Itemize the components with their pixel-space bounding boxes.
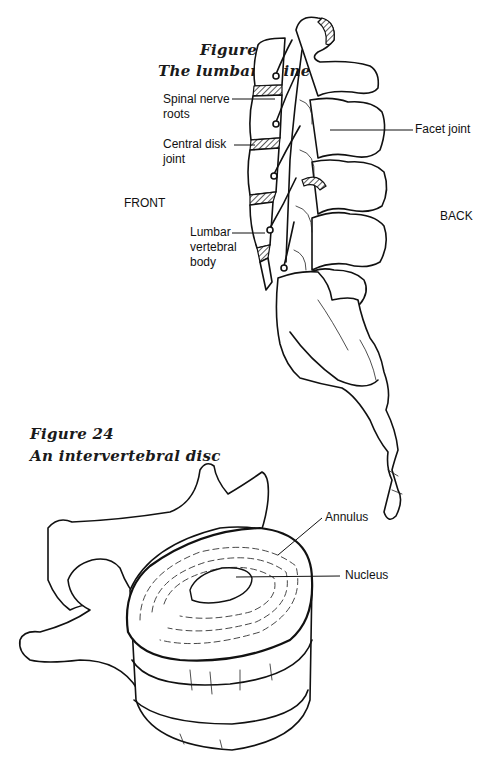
intervertebral-disc-illustration	[20, 464, 340, 750]
sacrum-coccyx	[276, 272, 402, 520]
lumbar-spine-illustration	[232, 17, 413, 519]
spinous-processes	[296, 17, 387, 306]
anatomy-illustrations	[0, 0, 494, 779]
